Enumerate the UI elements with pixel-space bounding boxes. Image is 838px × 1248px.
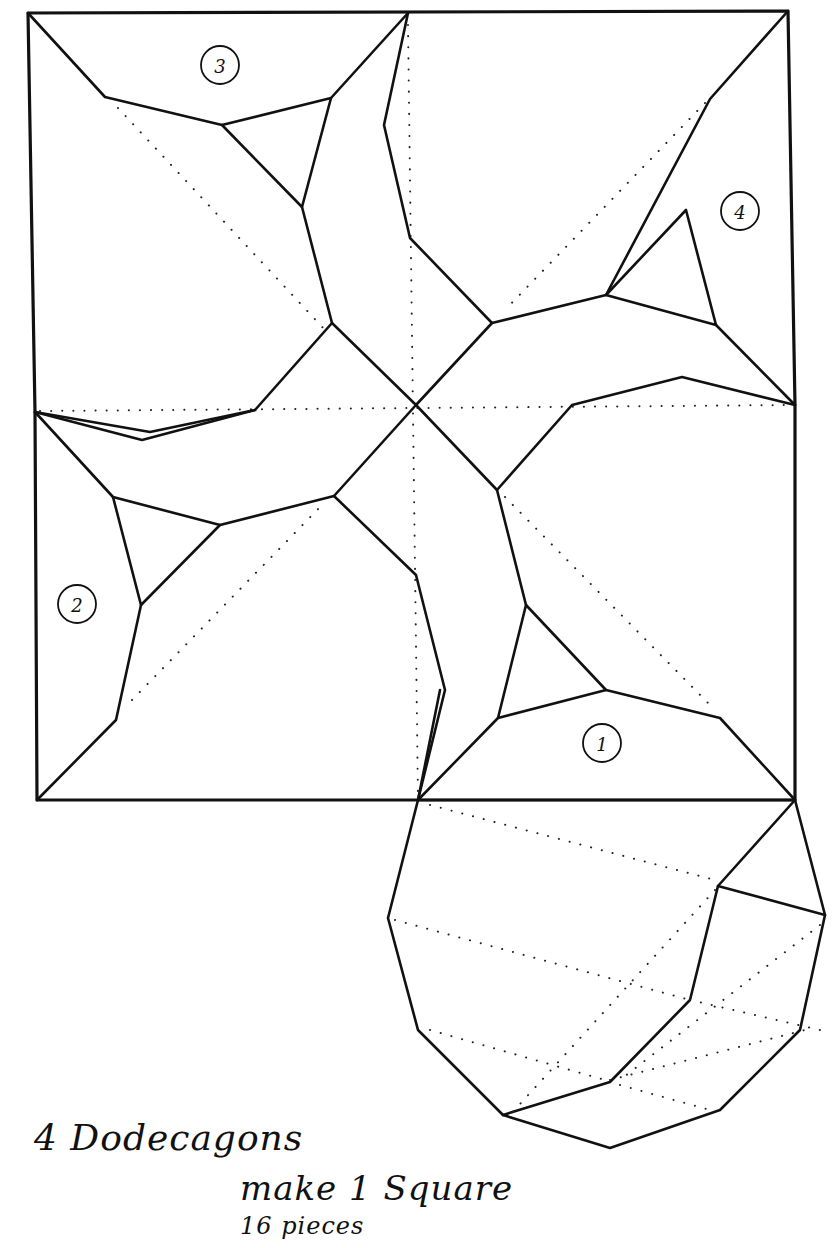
dissection-diagram: 1 2 3 4 xyxy=(0,0,838,1248)
dotted-guide-lines xyxy=(40,25,795,800)
piece-label-2: 2 xyxy=(58,585,96,623)
piece-label-4: 4 xyxy=(721,192,759,230)
caption-subtitle: make 1 Square xyxy=(240,1168,513,1208)
svg-text:1: 1 xyxy=(596,734,607,755)
piece-4-cuts xyxy=(384,11,795,490)
caption-title: 4 Dodecagons xyxy=(34,1117,303,1158)
piece-label-1: 1 xyxy=(583,724,621,762)
piece-label-3: 3 xyxy=(201,46,239,84)
dodecagon-assembled xyxy=(388,800,825,1148)
square-outline xyxy=(28,11,795,800)
svg-text:4: 4 xyxy=(733,202,745,223)
svg-text:2: 2 xyxy=(70,595,82,616)
svg-text:3: 3 xyxy=(214,56,225,77)
caption-piece-count: 16 pieces xyxy=(240,1212,364,1240)
